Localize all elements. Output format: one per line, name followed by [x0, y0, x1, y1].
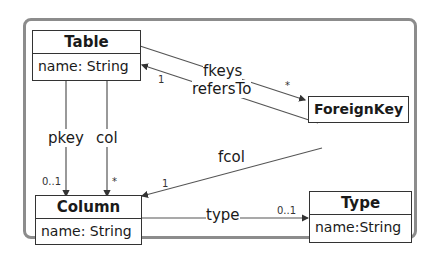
class-column[interactable]: Column name: String	[35, 195, 142, 245]
label-fkeys: fkeys	[203, 62, 242, 80]
label-col: col	[96, 129, 118, 147]
mult-fcol: 1	[162, 178, 168, 189]
mult-fkeys: *	[285, 80, 290, 91]
mult-col: *	[112, 176, 117, 187]
mult-pkey: 0..1	[42, 176, 61, 187]
class-type-attribute: name:String	[310, 215, 411, 240]
class-column-attribute: name: String	[36, 219, 141, 244]
class-table[interactable]: Table name: String	[32, 30, 141, 81]
mult-type: 0..1	[277, 205, 296, 216]
mult-refers-to: 1	[158, 74, 164, 85]
label-refers-to: refersTo	[192, 80, 251, 98]
class-table-name: Table	[33, 31, 140, 54]
class-type-name: Type	[310, 192, 411, 215]
class-table-attribute: name: String	[33, 54, 140, 79]
class-foreign-key[interactable]: ForeignKey	[308, 96, 409, 123]
class-type[interactable]: Type name:String	[309, 191, 412, 243]
label-pkey: pkey	[48, 129, 84, 147]
class-column-name: Column	[36, 196, 141, 219]
label-type: type	[206, 206, 240, 224]
label-fcol: fcol	[218, 148, 245, 166]
